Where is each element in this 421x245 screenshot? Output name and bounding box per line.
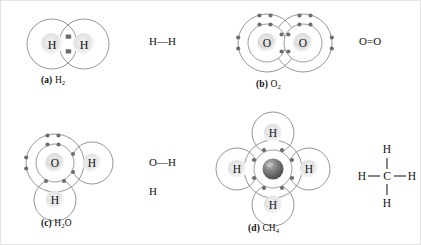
shared-electron xyxy=(286,49,290,53)
atom-label-h: H xyxy=(269,127,277,139)
atom-symbol-right: O xyxy=(373,35,381,47)
atom-label-h: H xyxy=(269,199,277,211)
atom-label-h: H xyxy=(305,163,313,175)
atom-symbol-h-bottom: H xyxy=(383,197,391,209)
ch4-lewis-svg: H H C H H xyxy=(356,141,418,211)
atom-label-o: O xyxy=(51,157,59,169)
shared-electron xyxy=(262,148,266,152)
lone-pair-electron xyxy=(268,22,272,26)
lone-pair-electron xyxy=(297,13,301,17)
shared-electron xyxy=(44,179,48,183)
h2o-top-row: O—H xyxy=(149,157,176,168)
shared-electron-pair xyxy=(66,35,72,39)
caption-subscript: 2 xyxy=(61,222,64,229)
caption-h2o: (c) H2O xyxy=(41,218,72,228)
shared-electron xyxy=(290,176,294,180)
shared-electron xyxy=(290,158,294,162)
lone-pair-electron xyxy=(268,13,272,17)
o2-diagram: O O xyxy=(229,9,354,79)
caption-tag: (a) xyxy=(41,75,52,85)
shared-electron xyxy=(252,158,256,162)
shared-electron-pair xyxy=(66,49,72,53)
panel-h2: H H (a) H2 xyxy=(21,13,131,75)
lone-pair-electron xyxy=(45,133,49,137)
caption-tag: (d) xyxy=(248,223,260,233)
atom-symbol-c: C xyxy=(383,170,391,182)
h2o-bottom-row: H xyxy=(149,186,176,197)
atom-label-h: H xyxy=(88,157,96,169)
atom-symbol-left: O xyxy=(359,35,367,47)
structural-formula-o2: O=O xyxy=(359,35,381,47)
h2-diagram: H H xyxy=(21,13,131,75)
structural-formula-h2o: O—H H xyxy=(149,157,176,197)
shared-electron xyxy=(286,32,290,36)
atom-symbol-h-right: H xyxy=(408,170,416,182)
atom-symbol-h-left: H xyxy=(358,170,366,182)
atom-symbol-h-top: H xyxy=(383,143,391,155)
atom-label-o: O xyxy=(263,37,271,49)
panel-ch4: H H H H (d) CH4 xyxy=(211,113,336,225)
structural-formula-h2: H—H xyxy=(149,35,176,47)
lone-pair-electron xyxy=(236,35,240,39)
carbon-sphere xyxy=(263,159,284,180)
atom-label-h: H xyxy=(233,163,241,175)
caption-ch4: (d) CH4 xyxy=(248,223,279,233)
caption-subscript: 2 xyxy=(277,83,280,90)
atom-label-h: H xyxy=(51,194,59,206)
lone-pair-electron xyxy=(297,22,301,26)
shared-electron xyxy=(71,152,75,156)
shared-electron xyxy=(280,49,284,53)
shared-electron xyxy=(280,32,284,36)
figure-root: H H (a) H2 H—H xyxy=(1,1,420,244)
caption-formula-tail: O xyxy=(65,218,72,228)
ch4-diagram: H H H H xyxy=(211,113,336,225)
atom-label-o: O xyxy=(299,37,307,49)
panel-o2: O O (b) O2 xyxy=(229,9,354,79)
atom-symbol-o: O xyxy=(149,156,157,168)
shared-electron xyxy=(280,186,284,190)
h2o-diagram: O H H xyxy=(13,125,125,220)
carbon-sphere-highlight xyxy=(266,162,273,167)
caption-tag: (c) xyxy=(41,218,52,228)
lone-pair-electron xyxy=(308,13,312,17)
caption-formula: H xyxy=(55,75,62,85)
shared-electron xyxy=(62,179,66,183)
atom-symbol-h: H xyxy=(168,156,176,168)
structural-formula-ch4: H H C H H xyxy=(356,141,418,211)
lone-pair-electron xyxy=(24,166,28,170)
lone-pair-electron xyxy=(24,155,28,159)
caption-subscript: 4 xyxy=(276,227,279,234)
caption-o2: (b) O2 xyxy=(256,79,281,89)
lone-pair-electron xyxy=(257,22,261,26)
shared-electron xyxy=(71,170,75,174)
caption-h2: (a) H2 xyxy=(41,75,65,85)
lone-pair-electron xyxy=(56,142,60,146)
lone-pair-electron xyxy=(308,22,312,26)
lone-pair-electron xyxy=(330,46,334,50)
atom-symbol-right: H xyxy=(168,35,176,47)
caption-subscript: 2 xyxy=(62,79,65,86)
lone-pair-electron xyxy=(45,142,49,146)
shared-electron xyxy=(280,148,284,152)
shared-electron xyxy=(252,176,256,180)
atom-symbol-left: H xyxy=(149,35,157,47)
lone-pair-electron xyxy=(330,35,334,39)
caption-tag: (b) xyxy=(256,79,268,89)
caption-formula: CH xyxy=(262,223,275,233)
shared-electron xyxy=(262,186,266,190)
atom-symbol-h: H xyxy=(149,185,157,197)
lone-pair-electron xyxy=(56,133,60,137)
lone-pair-electron xyxy=(257,13,261,17)
bond-line: — xyxy=(157,35,168,47)
bond-line: — xyxy=(157,156,168,168)
panel-h2o: O H H (c) H2O xyxy=(13,125,125,220)
atom-label-h: H xyxy=(48,38,57,52)
lone-pair-electron xyxy=(236,46,240,50)
atom-label-h: H xyxy=(80,38,89,52)
